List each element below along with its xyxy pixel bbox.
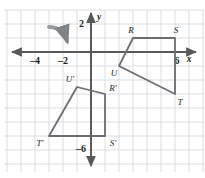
coordinate-plane-figure: x y –4 –2 6 2 –6 R S T U R′ S′ T′ U′ bbox=[0, 0, 205, 178]
vertex-label-u-prime: U′ bbox=[66, 74, 75, 84]
vertex-label-u: U bbox=[111, 68, 118, 78]
x-tick-label--2: –2 bbox=[57, 55, 68, 66]
plot-canvas: x y –4 –2 6 2 –6 R S T U R′ S′ T′ U′ bbox=[0, 0, 205, 178]
vertex-label-s-prime: S′ bbox=[110, 138, 118, 148]
y-axis-label: y bbox=[96, 12, 102, 22]
x-axis-label: x bbox=[186, 54, 192, 64]
x-tick-label--4: –4 bbox=[29, 55, 40, 66]
y-tick-label-2: 2 bbox=[79, 18, 84, 29]
vertex-label-t-prime: T′ bbox=[37, 138, 45, 148]
vertex-label-r-prime: R′ bbox=[108, 83, 117, 93]
y-tick-label--6: –6 bbox=[75, 143, 86, 154]
vertex-label-s: S bbox=[174, 25, 179, 35]
vertex-label-r: R bbox=[127, 25, 134, 35]
